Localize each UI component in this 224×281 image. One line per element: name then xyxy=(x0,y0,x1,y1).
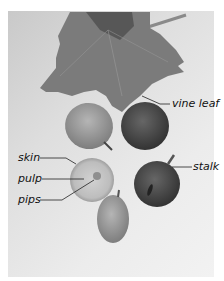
label-pips: pips xyxy=(18,194,41,205)
label-skin: skin xyxy=(18,152,40,163)
grape-whole-dark-right xyxy=(134,161,180,207)
grape-whole-light-bottom xyxy=(97,195,129,243)
grape-stalk xyxy=(168,155,174,164)
grape-whole-dark-top xyxy=(121,102,169,150)
grape-pips xyxy=(93,172,101,180)
label-pulp: pulp xyxy=(18,173,42,184)
label-vine-leaf: vine leaf xyxy=(172,98,219,109)
grape-whole-light-top xyxy=(60,98,118,155)
grape-cross-section xyxy=(70,158,114,202)
leaf-stem xyxy=(148,15,186,27)
label-stalk: stalk xyxy=(193,161,219,172)
grape-illustration xyxy=(0,0,224,281)
leader-skin xyxy=(40,158,76,164)
